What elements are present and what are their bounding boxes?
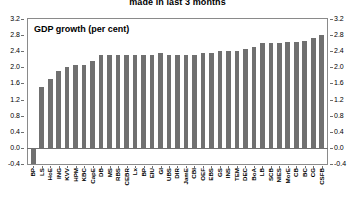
y-axis-tick-mark bbox=[21, 35, 24, 36]
x-axis-tick-label: KBC bbox=[81, 168, 87, 181]
bar-slot bbox=[114, 19, 122, 164]
bar-slot bbox=[199, 19, 207, 164]
y-axis-tick-label: 2.4 bbox=[334, 47, 344, 54]
bar bbox=[31, 148, 36, 164]
bar-series bbox=[28, 19, 327, 164]
bar-slot bbox=[317, 19, 325, 164]
bar-slot bbox=[71, 19, 79, 164]
x-axis-tick-label: JamE bbox=[183, 168, 189, 185]
x-axis-slot: LB bbox=[258, 166, 266, 209]
y-axis-tick-mark bbox=[21, 132, 24, 133]
x-axis-tick-label: DIR bbox=[174, 168, 180, 179]
x-axis-tick-label: Lx bbox=[132, 168, 138, 175]
x-axis-tick-label: CSFB bbox=[319, 168, 325, 185]
x-axis-tick-label: CB bbox=[293, 168, 299, 177]
bar bbox=[277, 43, 282, 148]
bar bbox=[201, 53, 206, 148]
x-axis-slot: CEBR bbox=[122, 166, 130, 209]
y-axis-tick-label: 0.8 bbox=[334, 112, 344, 119]
x-axis-slot: RBS bbox=[114, 166, 122, 209]
bar bbox=[175, 55, 180, 148]
y-axis-tick-mark bbox=[21, 148, 24, 149]
x-axis-tick-label: CG bbox=[310, 168, 316, 177]
y-axis-tick-mark bbox=[21, 100, 24, 101]
x-axis-slot: CBI bbox=[190, 166, 198, 209]
bar bbox=[150, 55, 155, 148]
x-axis-slot: EBS bbox=[207, 166, 215, 209]
chart-title: made in last 3 months bbox=[0, 0, 355, 7]
y-axis-tick-mark bbox=[330, 100, 333, 101]
x-axis-tick-label: DEC bbox=[242, 168, 248, 181]
x-axis-slot: GI bbox=[156, 166, 164, 209]
bar-slot bbox=[122, 19, 130, 164]
y-axis-tick-label: -0.4 bbox=[8, 160, 20, 167]
x-axis-tick-label: CEBR bbox=[123, 168, 129, 186]
x-axis-tick-label: HPM bbox=[73, 168, 79, 182]
x-axis-slot: LS bbox=[37, 166, 45, 209]
x-axis-slot: Lx bbox=[131, 166, 139, 209]
bar bbox=[243, 49, 248, 148]
x-axis-slot: CapE bbox=[88, 166, 96, 209]
bar-slot bbox=[88, 19, 96, 164]
x-axis-slot: BoA bbox=[250, 166, 258, 209]
x-axis-tick-label: EIU bbox=[149, 168, 155, 178]
zero-baseline bbox=[27, 148, 328, 149]
bar-slot bbox=[309, 19, 317, 164]
bar bbox=[218, 51, 223, 148]
bar-slot bbox=[250, 19, 258, 164]
y-axis-tick-label: 2.8 bbox=[334, 31, 344, 38]
x-axis-slot: KVV bbox=[63, 166, 71, 209]
bar-slot bbox=[156, 19, 164, 164]
bar-slot bbox=[37, 19, 45, 164]
y-axis-tick-label: 3.2 bbox=[334, 15, 344, 22]
bar bbox=[158, 53, 163, 148]
y-axis-left: 3.22.82.42.01.61.20.80.40.0-0.4 bbox=[0, 18, 24, 165]
x-axis-tick-label: UBS bbox=[166, 168, 172, 181]
bar bbox=[116, 55, 121, 148]
bar-slot bbox=[63, 19, 71, 164]
bar-slot bbox=[173, 19, 181, 164]
y-axis-tick-label: 0.0 bbox=[10, 144, 20, 151]
x-axis-slot: GS bbox=[216, 166, 224, 209]
x-axis-slot: EIU bbox=[148, 166, 156, 209]
bar bbox=[319, 35, 324, 148]
x-axis-tick-label: HoE bbox=[47, 168, 53, 180]
x-axis-tick-label: NIES bbox=[276, 168, 282, 182]
bar-slot bbox=[80, 19, 88, 164]
bar-slot bbox=[182, 19, 190, 164]
bar bbox=[141, 55, 146, 148]
bar bbox=[73, 65, 78, 148]
y-axis-tick-mark bbox=[330, 51, 333, 52]
bar-slot bbox=[216, 19, 224, 164]
bar bbox=[99, 55, 104, 148]
y-axis-tick-label: 2.0 bbox=[10, 63, 20, 70]
x-axis-tick-label: CapE bbox=[90, 168, 96, 184]
x-axis-tick-label: CBI bbox=[191, 168, 197, 179]
x-axis-tick-label: EBS bbox=[208, 168, 214, 181]
x-axis-slot: OEF bbox=[199, 166, 207, 209]
x-axis-slot: INS bbox=[224, 166, 232, 209]
bar bbox=[252, 47, 257, 148]
y-axis-tick-mark bbox=[330, 19, 333, 20]
y-axis-tick-label: 2.0 bbox=[334, 63, 344, 70]
x-axis-slot: ING bbox=[54, 166, 62, 209]
bar bbox=[82, 65, 87, 148]
bar bbox=[260, 43, 265, 148]
x-axis-slot: DB bbox=[97, 166, 105, 209]
bar-slot bbox=[97, 19, 105, 164]
y-axis-tick-label: 0.4 bbox=[334, 128, 344, 135]
bar bbox=[90, 61, 95, 148]
x-axis-tick-label: GS bbox=[217, 168, 223, 177]
bar bbox=[48, 79, 53, 147]
y-axis-tick-label: 2.4 bbox=[10, 47, 20, 54]
bar-slot bbox=[165, 19, 173, 164]
y-axis-tick-label: 1.6 bbox=[334, 79, 344, 86]
x-axis-slot: SCB bbox=[267, 166, 275, 209]
x-axis-slot: HoE bbox=[46, 166, 54, 209]
x-axis-slot: CSFB bbox=[317, 166, 325, 209]
x-axis-slot: DEC bbox=[241, 166, 249, 209]
x-axis-slot: MorE bbox=[284, 166, 292, 209]
bar-slot bbox=[275, 19, 283, 164]
bar bbox=[124, 55, 129, 148]
bar-slot bbox=[241, 19, 249, 164]
